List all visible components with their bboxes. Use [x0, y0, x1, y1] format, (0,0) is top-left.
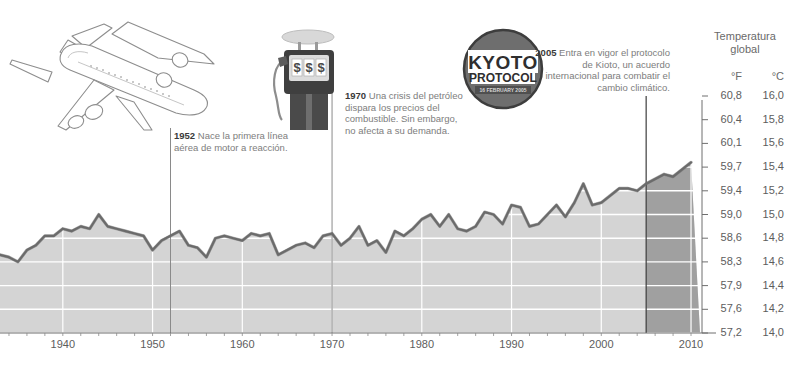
svg-text:$: $	[305, 60, 313, 75]
svg-text:$: $	[293, 60, 301, 75]
stamp-line-kyoto: KYOTO	[468, 52, 538, 73]
y-tick-celsius: 15,0	[750, 208, 784, 220]
stamp-line-date: 16 FEBRUARY 2005	[480, 87, 527, 93]
x-tick-label: 2000	[571, 338, 631, 350]
x-tick-label: 1990	[482, 338, 542, 350]
axis-unit-celsius: °C	[750, 70, 784, 82]
y-tick-fahrenheit: 57,6	[708, 302, 742, 314]
y-tick-fahrenheit: 59,0	[708, 208, 742, 220]
y-tick-fahrenheit: 60,4	[708, 113, 742, 125]
y-tick-celsius: 15,8	[750, 113, 784, 125]
y-tick-fahrenheit: 60,8	[708, 89, 742, 101]
x-tick-label: 1940	[33, 338, 93, 350]
y-tick-fahrenheit: 59,7	[708, 160, 742, 172]
y-tick-fahrenheit: 59,4	[708, 184, 742, 196]
annotation-2005-year: 2005	[535, 47, 556, 58]
x-tick-label: 2010	[661, 338, 721, 350]
annotation-1952: 1952 Nace la primera línea aérea de moto…	[174, 130, 292, 153]
y-tick-celsius: 16,0	[750, 89, 784, 101]
airplane-icon	[8, 18, 223, 133]
y-tick-celsius: 14,8	[750, 231, 784, 243]
y-tick-celsius: 14,0	[750, 326, 784, 338]
y-tick-celsius: 14,6	[750, 255, 784, 267]
axis-unit-fahrenheit: °F	[708, 70, 742, 82]
x-tick-label: 1970	[302, 338, 362, 350]
chart-area-fill	[0, 162, 700, 333]
y-tick-celsius: 14,2	[750, 302, 784, 314]
y-tick-fahrenheit: 57,2	[708, 326, 742, 338]
axis-title-line2: global	[700, 43, 790, 56]
y-tick-celsius: 15,2	[750, 184, 784, 196]
annotation-1952-year: 1952	[174, 130, 195, 141]
svg-text:$: $	[317, 60, 325, 75]
fuel-pump-icon: $ $ $	[268, 22, 340, 130]
y-tick-fahrenheit: 57,9	[708, 279, 742, 291]
annotation-1970-year: 1970	[345, 90, 366, 101]
y-tick-celsius: 14,4	[750, 279, 784, 291]
y-tick-fahrenheit: 58,3	[708, 255, 742, 267]
x-tick-label: 1960	[212, 338, 272, 350]
y-tick-celsius: 15,4	[750, 160, 784, 172]
stamp-line-protocol: PROTOCOL	[469, 71, 537, 85]
annotation-2005: 2005 Entra en vigor el protocolo de Kiot…	[535, 47, 670, 93]
x-tick-label: 1980	[392, 338, 452, 350]
y-tick-celsius: 15,6	[750, 136, 784, 148]
axis-title-line1: Temperatura	[700, 30, 790, 43]
annotation-1970: 1970 Una crisis del petróleo dispara los…	[345, 90, 463, 136]
y-tick-fahrenheit: 58,6	[708, 231, 742, 243]
y-tick-fahrenheit: 60,1	[708, 136, 742, 148]
axis-header: Temperatura global	[700, 30, 790, 56]
x-tick-label: 1950	[123, 338, 183, 350]
pump-display-digits: $ $ $	[292, 59, 326, 76]
kyoto-protocol-stamp: KYOTO PROTOCOL 16 FEBRUARY 2005	[462, 28, 544, 110]
infographic-root: $ $ $ KYOTO PROTOCOL 16 FEBRUARY 2005 Te…	[0, 0, 790, 381]
annotation-2005-text: Entra en vigor el protocolo de Kioto, un…	[545, 47, 670, 93]
